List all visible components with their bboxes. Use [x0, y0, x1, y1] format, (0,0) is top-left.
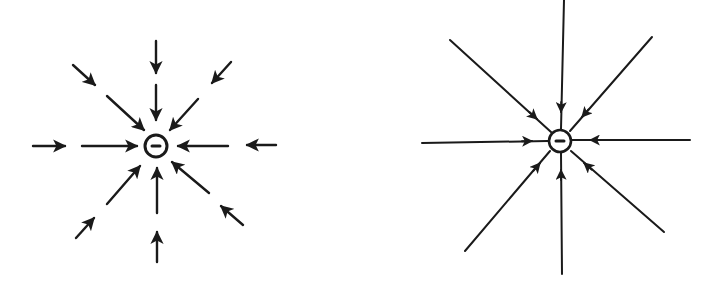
field-lines-panel [422, 0, 690, 274]
field-vector-arrow [107, 96, 144, 130]
field-line-arrowhead-icon [534, 163, 540, 171]
figure: − − [0, 0, 720, 282]
field-vector-arrow [172, 162, 209, 193]
field-vector-arrow [212, 62, 231, 83]
field-line-arrowhead-icon [584, 163, 592, 170]
field-line-arrowhead-icon [530, 112, 537, 119]
field-vector-arrow [73, 65, 95, 85]
field-vector-arrow [107, 166, 140, 204]
field-diagram-svg [0, 0, 720, 282]
vector-field-panel [33, 41, 276, 262]
field-vector-arrow [221, 206, 243, 225]
field-vector-arrow [76, 218, 94, 238]
field-line-arrowhead-icon [582, 109, 589, 117]
field-vector-arrow [170, 99, 198, 130]
